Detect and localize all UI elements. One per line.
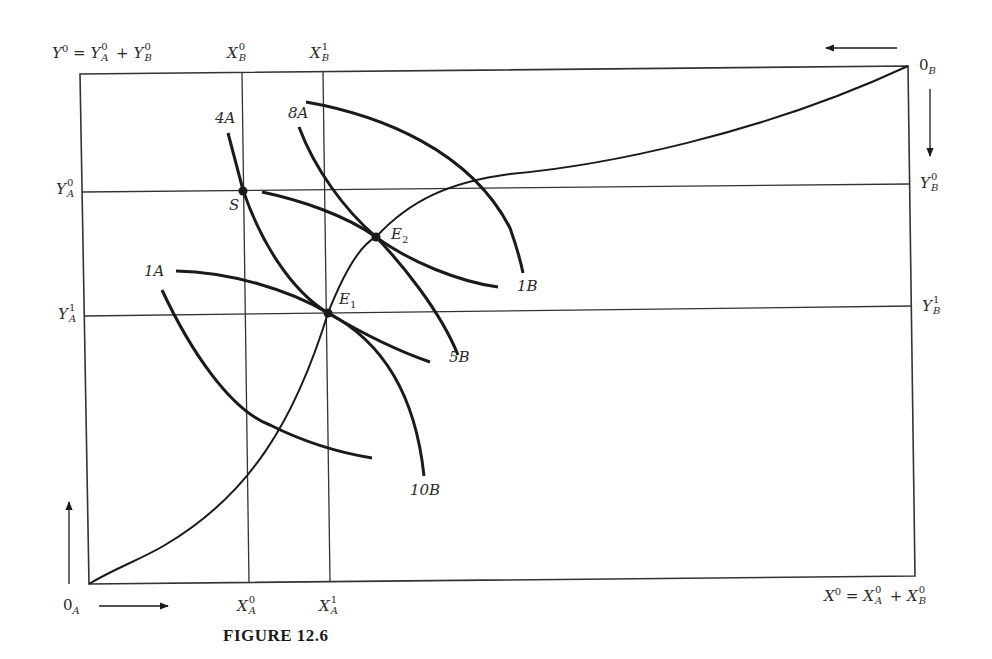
indifference-curve-4A <box>228 133 430 362</box>
vline-XB0-XA0 <box>242 73 249 583</box>
label-XB1: X1B <box>310 44 332 64</box>
label-origin-B: 0B <box>919 58 936 76</box>
point-E2 <box>372 233 381 242</box>
label-total-X: X0 = X0A + X0B <box>824 587 929 607</box>
label-curve-1A: 1A <box>144 264 164 279</box>
label-YA0: Y0A <box>56 180 77 200</box>
label-YB1: Y1B <box>922 297 943 317</box>
hline-YA0-YB0 <box>82 184 910 192</box>
edgeworth-box-diagram <box>0 0 992 659</box>
label-origin-A: 0A <box>63 598 80 616</box>
figure-caption: FIGURE 12.6 <box>223 626 329 646</box>
label-YA1: Y1A <box>58 305 79 325</box>
point-E1 <box>324 309 333 318</box>
label-point-E1: E1 <box>339 292 356 310</box>
label-YB0: Y0B <box>920 174 941 194</box>
label-total-Y: Y0 = Y0A + Y0B <box>52 44 154 64</box>
label-point-S: S <box>229 198 239 213</box>
label-curve-10B: 10B <box>410 483 440 498</box>
label-curve-1B: 1B <box>517 279 538 294</box>
label-curve-8A: 8A <box>288 106 308 121</box>
indifference-curve-5B <box>262 192 498 287</box>
hline-YA1-YB1 <box>84 306 912 316</box>
label-XA1: X1A <box>319 597 341 617</box>
label-XA0: X0A <box>237 597 259 617</box>
contract-curve <box>89 66 908 584</box>
label-XB0: X0B <box>227 44 249 64</box>
indifference-curve-8A <box>299 127 458 355</box>
label-point-E2: E2 <box>391 227 408 245</box>
indifference-curve-10B <box>176 271 424 476</box>
point-S <box>239 187 248 196</box>
label-curve-4A: 4A <box>215 111 235 126</box>
label-curve-5B: 5B <box>449 350 470 365</box>
edgeworth-box-frame <box>80 66 915 584</box>
